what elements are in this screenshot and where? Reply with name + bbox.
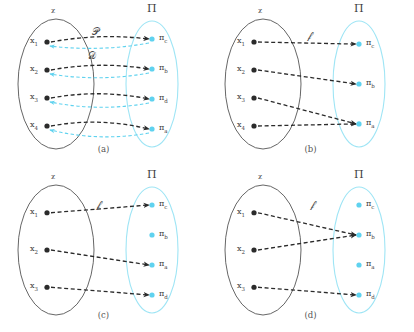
domain-node-label-x2: x2 <box>237 244 245 255</box>
domain-node-label-x3: x3 <box>237 281 245 292</box>
domain-node-x2 <box>44 67 49 72</box>
panel-a-canvas <box>0 0 207 166</box>
codomain-set-label: Π <box>354 2 364 15</box>
codomain-node-label-pa: πa <box>159 259 168 270</box>
map-label: 𝒻 <box>307 30 311 42</box>
map-label: 𝒻 <box>96 199 100 211</box>
domain-node-label-x2: x2 <box>30 64 38 75</box>
codomain-node-label-pa: πa <box>366 118 375 129</box>
domain-node-x1 <box>44 210 49 215</box>
codomain-node-label-pc: πc <box>366 199 374 210</box>
domain-node-label-x4: x4 <box>237 120 245 131</box>
codomain-node-pa <box>149 126 154 131</box>
codomain-node-label-pc: πc <box>366 38 374 49</box>
domain-node-label-x3: x3 <box>30 92 38 103</box>
codomain-set-label: Π <box>354 168 364 181</box>
domain-node-x4 <box>44 123 49 128</box>
edge-forward-x2-to-pb <box>258 70 356 84</box>
edge-forward-x2-to-pb <box>258 235 356 250</box>
domain-node-label-x3: x3 <box>237 92 245 103</box>
map-label: 𝒻 <box>310 199 314 211</box>
codomain-set-label: Π <box>147 2 157 15</box>
panel-c: ᵪΠ𝒻x1x2x3πcπbπaπd(c) <box>0 166 207 332</box>
edge-forward-x4-to-pa <box>258 124 356 126</box>
panel-b: ᵪΠ𝒻x1x2x3x4πcπbπa(b) <box>207 0 414 166</box>
panel-caption-a: (a) <box>0 144 207 154</box>
domain-node-x1 <box>44 39 49 44</box>
codomain-node-label-pb: πb <box>366 78 375 89</box>
panel-caption-c: (c) <box>0 310 207 320</box>
codomain-node-label-pd: πd <box>159 93 168 104</box>
domain-node-label-x1: x1 <box>30 207 38 218</box>
codomain-node-label-pb: πb <box>159 63 168 74</box>
domain-set-label: ᵪ <box>51 168 55 181</box>
domain-node-label-x4: x4 <box>30 120 38 131</box>
domain-node-x3 <box>251 95 256 100</box>
codomain-node-pa <box>356 121 361 126</box>
codomain-node-pa <box>149 262 154 267</box>
domain-node-label-x1: x1 <box>237 36 245 47</box>
codomain-node-pd <box>149 292 154 297</box>
codomain-node-pc <box>149 36 154 41</box>
codomain-node-pc <box>356 42 361 47</box>
domain-node-label-x3: x3 <box>30 281 38 292</box>
domain-set-label: ᵪ <box>258 2 262 15</box>
edge-forward-x3-to-pd <box>258 287 356 295</box>
edge-forward-x2-to-pb <box>51 65 149 70</box>
codomain-node-label-pc: πc <box>159 199 167 210</box>
panel-caption-d: (d) <box>207 310 414 320</box>
codomain-node-pd <box>356 292 361 297</box>
edge-forward-x3-to-pa <box>258 98 356 124</box>
codomain-node-pb <box>149 232 154 237</box>
edge-forward-x3-to-pd <box>51 287 149 295</box>
edge-forward-x1-to-pc <box>51 205 149 213</box>
domain-node-x3 <box>44 95 49 100</box>
codomain-node-label-pa: πa <box>366 259 375 270</box>
edge-backward-pd-to-x3 <box>50 102 149 107</box>
codomain-node-label-pa: πa <box>159 123 168 134</box>
panel-b-canvas <box>207 0 414 166</box>
panel-d: ᵪΠ𝒻x1x2x3πcπbπaπd(d) <box>207 166 414 332</box>
figure-panels-abcd: ᵪΠ𝒫𝒟x1x2x3x4πcπbπdπa(a)ᵪΠ𝒻x1x2x3x4πcπbπa… <box>0 0 414 332</box>
codomain-set-label: Π <box>147 168 157 181</box>
codomain-node-label-pb: πb <box>366 229 375 240</box>
domain-node-x2 <box>251 247 256 252</box>
domain-set-label: ᵪ <box>258 168 262 181</box>
domain-node-x3 <box>251 285 256 290</box>
domain-node-x3 <box>44 285 49 290</box>
panel-a: ᵪΠ𝒫𝒟x1x2x3x4πcπbπdπa(a) <box>0 0 207 166</box>
domain-node-x2 <box>44 247 49 252</box>
codomain-node-label-pd: πd <box>159 289 168 300</box>
codomain-node-pb <box>356 81 361 86</box>
domain-node-x1 <box>251 39 256 44</box>
domain-node-x2 <box>251 67 256 72</box>
codomain-node-pc <box>149 202 154 207</box>
codomain-node-pa <box>356 262 361 267</box>
edge-forward-x1-to-pc <box>258 42 356 44</box>
domain-node-x1 <box>251 210 256 215</box>
domain-node-label-x2: x2 <box>237 64 245 75</box>
edge-backward-pc-to-x1 <box>50 43 149 48</box>
codomain-node-pb <box>356 232 361 237</box>
backward-map-label: 𝒟 <box>88 50 96 62</box>
edge-forward-x1-to-pb <box>258 213 356 235</box>
domain-set-label: ᵪ <box>51 2 55 15</box>
panel-caption-b: (b) <box>207 144 414 154</box>
codomain-node-pc <box>356 202 361 207</box>
domain-node-label-x1: x1 <box>237 207 245 218</box>
codomain-node-label-pc: πc <box>159 33 167 44</box>
edge-forward-x3-to-pd <box>51 94 149 99</box>
domain-node-label-x2: x2 <box>30 244 38 255</box>
domain-node-x4 <box>251 123 256 128</box>
edge-backward-pb-to-x2 <box>50 73 149 78</box>
codomain-node-label-pd: πd <box>366 289 375 300</box>
edge-forward-x4-to-pa <box>51 122 149 129</box>
codomain-node-pd <box>149 96 154 101</box>
forward-map-label: 𝒫 <box>92 26 99 38</box>
domain-node-label-x1: x1 <box>30 36 38 47</box>
edge-forward-x2-to-pa <box>51 250 149 265</box>
codomain-node-label-pb: πb <box>159 229 168 240</box>
codomain-node-pb <box>149 66 154 71</box>
